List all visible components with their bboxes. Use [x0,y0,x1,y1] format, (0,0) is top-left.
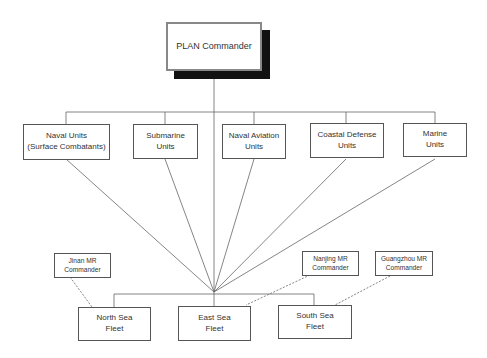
fleet-label: East Sea Fleet [198,313,230,335]
unit-naval-aviation: Naval Aviation Units [222,124,286,159]
mr-commander-label: Guangzhou MR Commander [381,255,427,272]
unit-marine: Marine Units [403,123,467,157]
jinan-mr-commander-box: Jinan MR Commander [54,253,111,278]
fleet-label: North Sea Fleet [96,313,132,335]
plan-commander-label: PLAN Commander [176,40,252,52]
unit-label: Marine Units [423,129,447,151]
unit-naval-surface: Naval Units (Surface Combatants) [23,124,110,160]
mr-commander-label: Jinan MR Commander [64,257,100,274]
nanjing-mr-commander-box: Nanjing MR Commander [302,251,359,276]
org-chart: PLAN Commander Naval Units (Surface Comb… [0,0,487,358]
mr-commander-label: Nanjing MR Commander [312,255,348,272]
east-sea-fleet-box: East Sea Fleet [178,306,251,341]
unit-label: Naval Aviation Units [229,131,280,153]
north-sea-fleet-box: North Sea Fleet [78,307,151,341]
south-sea-fleet-box: South Sea Fleet [278,305,352,339]
unit-submarine: Submarine Units [133,124,198,159]
guangzhou-mr-commander-box: Guangzhou MR Commander [375,251,433,276]
unit-coastal-defense: Coastal Defense Units [310,123,384,158]
unit-label: Coastal Defense Units [317,130,376,152]
plan-commander-box: PLAN Commander [166,22,262,71]
unit-label: Naval Units (Surface Combatants) [27,131,105,153]
fleet-label: South Sea Fleet [296,311,333,333]
unit-label: Submarine Units [146,131,185,153]
